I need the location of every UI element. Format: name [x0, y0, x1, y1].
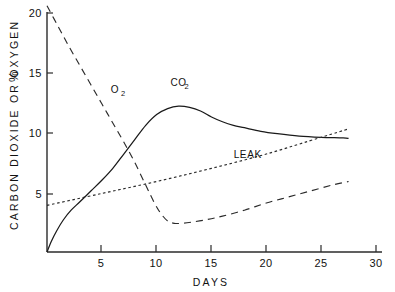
x-axis-tick-labels: 5 10 15 20 25 30 — [98, 257, 383, 269]
series-co2-line — [47, 106, 349, 252]
series-label-o2: O 2 — [111, 84, 125, 98]
y-tick-label-10: 10 — [29, 127, 42, 139]
x-axis-title: DAYS — [193, 276, 230, 288]
y-axis-title: CARBON DIOXIDE OR OXYGEN — [8, 20, 20, 230]
y-axis-unit: % — [7, 71, 21, 82]
x-tick-label-5: 5 — [98, 257, 105, 269]
x-tick-label-20: 20 — [259, 257, 272, 269]
x-axis-ticks — [101, 245, 376, 252]
series-leak-line — [47, 129, 349, 205]
x-tick-label-30: 30 — [369, 257, 382, 269]
y-tick-label-5: 5 — [35, 188, 42, 200]
y-tick-label-20: 20 — [29, 7, 42, 19]
series-label-o2-subscript: 2 — [121, 89, 125, 98]
series-annotations: CO 2 O 2 LEAK — [111, 77, 262, 160]
x-tick-label-15: 15 — [204, 257, 217, 269]
series-label-leak: LEAK — [234, 149, 262, 160]
y-axis-tick-labels: 20 15 10 5 — [29, 7, 42, 200]
x-tick-label-10: 10 — [149, 257, 162, 269]
series-label-leak-text: LEAK — [234, 149, 262, 160]
series-label-co2-subscript: 2 — [185, 82, 189, 91]
series-label-co2: CO 2 — [170, 77, 188, 91]
chart-svg: CARBON DIOXIDE OR OXYGEN % 20 15 10 5 — [0, 0, 395, 292]
y-axis-ticks — [47, 13, 53, 194]
chart-figure: CARBON DIOXIDE OR OXYGEN % 20 15 10 5 — [0, 0, 395, 292]
series-o2-line — [47, 6, 349, 224]
y-tick-label-15: 15 — [29, 67, 42, 79]
series-paths — [47, 6, 349, 252]
series-label-o2-text: O — [111, 84, 119, 95]
y-axis-title-group: CARBON DIOXIDE OR OXYGEN % — [7, 20, 21, 230]
x-tick-label-25: 25 — [314, 257, 327, 269]
